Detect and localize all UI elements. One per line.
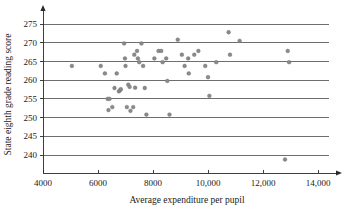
data-point xyxy=(70,64,74,68)
data-point xyxy=(180,53,184,57)
y-tick-label: 250 xyxy=(24,113,38,123)
data-point xyxy=(214,60,218,64)
scatter-plot-svg: 24024525025526026527027540006000800010,0… xyxy=(0,0,346,213)
data-point xyxy=(161,60,165,64)
data-point xyxy=(119,87,123,91)
y-tick-label: 260 xyxy=(24,75,38,85)
data-point xyxy=(128,85,132,89)
data-point xyxy=(186,57,190,61)
data-point xyxy=(164,57,168,61)
x-tick-label: 14,000 xyxy=(306,178,331,188)
data-point xyxy=(165,79,169,83)
data-point xyxy=(136,57,140,61)
data-point xyxy=(123,57,127,61)
data-point xyxy=(283,158,287,162)
data-point xyxy=(228,53,232,57)
data-point xyxy=(238,39,242,43)
data-point xyxy=(227,30,231,34)
data-point xyxy=(168,113,172,117)
y-axis-ticks: 240245250255260265270275 xyxy=(24,19,44,160)
data-point xyxy=(196,49,200,53)
data-point xyxy=(143,86,147,90)
data-points xyxy=(70,30,291,161)
y-tick-label: 240 xyxy=(24,150,38,160)
data-point xyxy=(140,42,144,46)
data-point xyxy=(152,57,156,61)
data-point xyxy=(287,60,291,64)
data-point xyxy=(286,49,290,53)
data-point xyxy=(132,53,136,57)
data-point xyxy=(115,72,119,76)
data-point xyxy=(103,72,107,76)
data-point xyxy=(187,72,191,76)
y-tick-label: 255 xyxy=(24,94,38,104)
y-tick-label: 245 xyxy=(24,131,38,141)
x-axis-arrow xyxy=(336,170,342,175)
data-point xyxy=(145,113,149,117)
scatter-plot-figure: 24024525025526026527027540006000800010,0… xyxy=(0,0,346,213)
data-point xyxy=(203,64,207,68)
data-point xyxy=(107,108,111,112)
data-point xyxy=(108,97,112,101)
data-point xyxy=(206,75,210,79)
x-tick-label: 10,000 xyxy=(196,178,221,188)
data-point xyxy=(159,49,163,53)
gridlines xyxy=(43,24,329,155)
x-tick-label: 8000 xyxy=(144,178,163,188)
data-point xyxy=(192,53,196,57)
x-tick-label: 6000 xyxy=(89,178,108,188)
data-point xyxy=(133,86,137,90)
y-tick-label: 275 xyxy=(24,19,38,29)
data-point xyxy=(176,38,180,42)
data-point xyxy=(110,105,114,109)
x-tick-label: 12,000 xyxy=(251,178,276,188)
y-tick-label: 265 xyxy=(24,57,38,67)
y-tick-label: 270 xyxy=(24,38,38,48)
data-point xyxy=(141,64,145,68)
axes xyxy=(40,5,342,176)
x-axis-title: Average expenditure per pupil xyxy=(129,195,244,205)
data-point xyxy=(207,94,211,98)
data-point xyxy=(99,64,103,68)
data-point xyxy=(183,64,187,68)
data-point xyxy=(125,105,129,109)
y-axis-title: State eighth grade reading score xyxy=(3,34,13,156)
y-axis-arrow xyxy=(40,5,45,11)
data-point xyxy=(113,86,117,90)
data-point xyxy=(124,64,128,68)
data-point xyxy=(129,109,133,113)
data-point xyxy=(135,49,139,53)
data-point xyxy=(137,60,141,64)
x-axis-ticks: 40006000800010,00012,00014,000 xyxy=(34,170,331,189)
data-point xyxy=(122,42,126,46)
x-tick-label: 4000 xyxy=(34,178,53,188)
data-point xyxy=(131,105,135,109)
